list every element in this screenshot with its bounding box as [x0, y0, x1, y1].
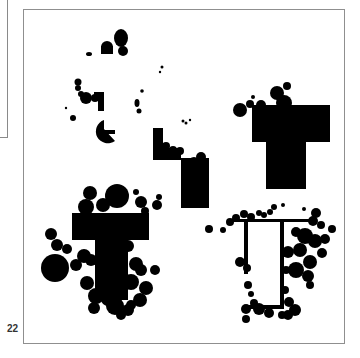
- cluster-top-right-T: [233, 82, 330, 189]
- pacman-blob: [96, 120, 115, 143]
- blob-diagram: [0, 0, 360, 358]
- cluster-top-small: [65, 29, 164, 121]
- cluster-bottom-right-T: [205, 203, 336, 323]
- cluster-left-step: [75, 79, 144, 114]
- cluster-bottom-left-T: [41, 184, 162, 320]
- cluster-center-stair: [153, 119, 209, 208]
